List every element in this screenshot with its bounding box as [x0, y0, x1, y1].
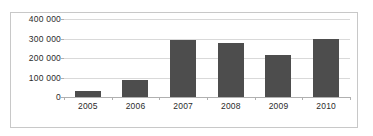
x-axis-category-labels: 200520062007200820092010 [64, 101, 350, 117]
bar-2007 [170, 40, 196, 97]
bar-2009 [265, 55, 291, 98]
x-axis-tick-mark [64, 97, 65, 100]
x-axis-label-2007: 2007 [173, 101, 193, 111]
x-axis-tick-mark [207, 97, 208, 100]
x-axis-label-2005: 2005 [78, 101, 98, 111]
x-axis-tick-mark [159, 97, 160, 100]
bar-slot [255, 19, 303, 97]
x-axis-tick-mark [255, 97, 256, 100]
y-axis-tick-labels: 0100 000200 000300 000400 000 [11, 13, 61, 129]
x-axis-tick-mark [302, 97, 303, 100]
y-axis-tick-label: 200 000 [29, 53, 61, 63]
bar-2010 [313, 39, 339, 98]
bar-slot [302, 19, 350, 97]
bar-2006 [122, 80, 148, 97]
x-axis-tick-mark [112, 97, 113, 100]
x-axis-label-2010: 2010 [316, 101, 336, 111]
bar-slot [159, 19, 207, 97]
bars-layer [64, 19, 350, 97]
y-axis-tick-label: 400 000 [29, 14, 61, 24]
x-axis-label-2006: 2006 [126, 101, 146, 111]
bar-chart-figure: 0100 000200 000300 000400 000 2005200620… [10, 12, 358, 128]
y-axis-tick-label: 300 000 [29, 34, 61, 44]
x-axis-label-2009: 2009 [269, 101, 289, 111]
bar-slot [207, 19, 255, 97]
x-axis-label-2008: 2008 [221, 101, 241, 111]
y-axis-tick-label: 100 000 [29, 73, 61, 83]
bar-slot [64, 19, 112, 97]
bar-2008 [218, 43, 244, 97]
bar-slot [112, 19, 160, 97]
x-axis-tick-mark [350, 97, 351, 100]
